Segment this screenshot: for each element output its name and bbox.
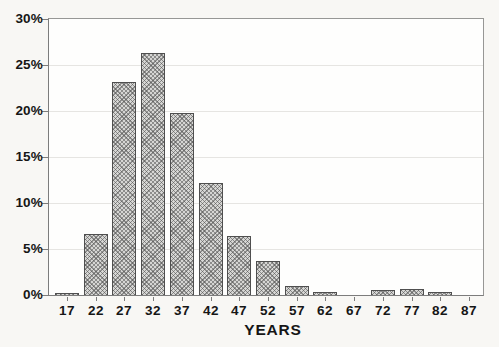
bar <box>112 82 136 295</box>
y-tick-label: 25% <box>6 57 43 73</box>
y-tick-label: 15% <box>6 149 43 165</box>
x-tick-label: 37 <box>167 303 197 319</box>
x-tick <box>124 297 125 301</box>
x-axis-title: YEARS <box>49 321 497 339</box>
x-tick-label: 72 <box>368 303 398 319</box>
bar <box>400 289 424 295</box>
gridline <box>49 65 483 66</box>
y-tick-label: 5% <box>6 241 43 257</box>
x-tick-label: 22 <box>81 303 111 319</box>
x-tick-label: 77 <box>397 303 427 319</box>
bar <box>141 53 165 295</box>
x-tick <box>67 297 68 301</box>
bar <box>428 292 452 295</box>
x-tick-label: 42 <box>196 303 226 319</box>
bar <box>84 234 108 295</box>
y-tick-label: 20% <box>6 103 43 119</box>
y-tick-label: 30% <box>6 11 43 27</box>
x-tick-label: 32 <box>138 303 168 319</box>
x-tick-label: 87 <box>454 303 484 319</box>
x-tick-label: 82 <box>425 303 455 319</box>
bar-chart: 0%5%10%15%20%25%30% 17222732374247525762… <box>0 0 499 347</box>
x-tick <box>325 297 326 301</box>
bar <box>55 293 79 295</box>
bar <box>199 183 223 295</box>
x-tick <box>96 297 97 301</box>
x-tick <box>297 297 298 301</box>
x-tick <box>153 297 154 301</box>
x-tick <box>354 297 355 301</box>
x-tick <box>211 297 212 301</box>
plot-area <box>48 18 484 296</box>
bar <box>285 286 309 295</box>
y-tick-label: 0% <box>6 287 43 303</box>
bar <box>227 236 251 295</box>
x-tick-label: 17 <box>52 303 82 319</box>
y-tick-label: 10% <box>6 195 43 211</box>
bar <box>256 261 280 295</box>
x-tick-label: 52 <box>253 303 283 319</box>
x-tick-label: 67 <box>339 303 369 319</box>
x-tick-label: 47 <box>224 303 254 319</box>
bar <box>170 113 194 295</box>
x-tick <box>239 297 240 301</box>
x-tick <box>469 297 470 301</box>
x-tick <box>268 297 269 301</box>
x-tick <box>182 297 183 301</box>
bar <box>371 290 395 295</box>
bar <box>313 292 337 295</box>
x-tick-label: 57 <box>282 303 312 319</box>
x-tick <box>412 297 413 301</box>
x-tick <box>383 297 384 301</box>
x-tick <box>440 297 441 301</box>
x-tick-label: 27 <box>109 303 139 319</box>
x-tick-label: 62 <box>310 303 340 319</box>
